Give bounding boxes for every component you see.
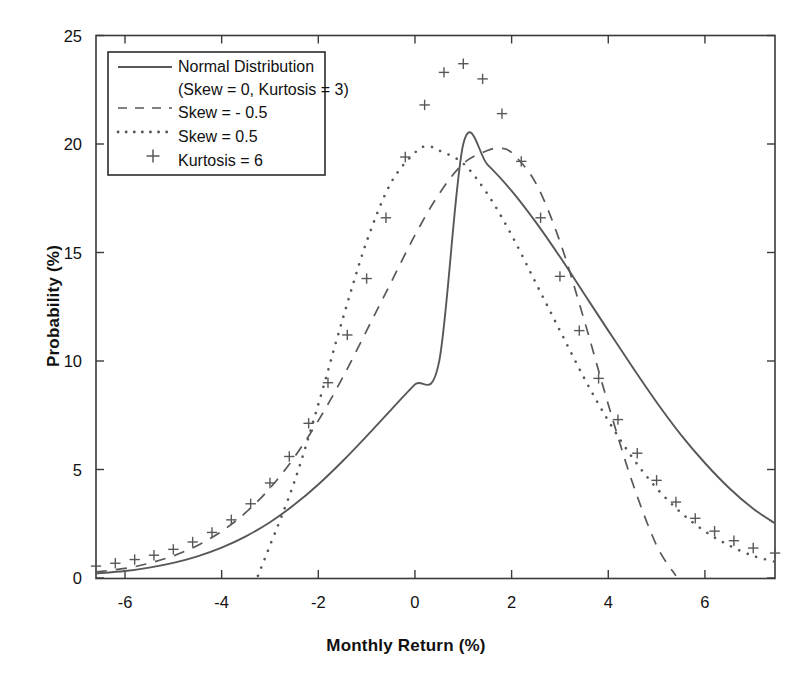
x-axis-tick-labels: -6-4-20246 xyxy=(118,593,710,611)
x-tick-label: -6 xyxy=(118,593,133,611)
series-2 xyxy=(258,146,775,576)
x-tick-label: 6 xyxy=(700,593,709,611)
x-tick-label: 2 xyxy=(507,593,516,611)
x-tick-label: -2 xyxy=(311,593,326,611)
y-tick-label: 25 xyxy=(64,27,82,45)
y-axis-tick-labels: 0510152025 xyxy=(64,27,82,588)
x-axis-title: Monthly Return (%) xyxy=(0,636,812,656)
x-tick-label: 4 xyxy=(604,593,613,611)
y-axis-title: Probability (%) xyxy=(44,156,64,456)
legend-label-normal-1: Normal Distribution xyxy=(178,58,314,75)
legend-label-normal-2: (Skew = 0, Kurtosis = 3) xyxy=(178,81,349,98)
series-0 xyxy=(96,132,775,573)
y-tick-label: 20 xyxy=(64,135,82,153)
legend-label-kurtosis: Kurtosis = 6 xyxy=(178,152,263,169)
y-tick-label: 0 xyxy=(73,569,82,587)
chart-legend: Normal Distribution(Skew = 0, Kurtosis =… xyxy=(108,52,349,175)
legend-label-skew-neg: Skew = - 0.5 xyxy=(178,104,267,121)
y-tick-label: 5 xyxy=(73,461,82,479)
x-tick-label: -4 xyxy=(214,593,229,611)
distribution-chart: -6-4-20246 0510152025 Normal Distributio… xyxy=(0,0,812,686)
series-1 xyxy=(96,148,676,576)
x-tick-label: 0 xyxy=(410,593,419,611)
chart-figure: -6-4-20246 0510152025 Normal Distributio… xyxy=(0,0,812,686)
y-tick-label: 15 xyxy=(64,244,82,262)
legend-label-skew-pos: Skew = 0.5 xyxy=(178,128,258,145)
y-tick-label: 10 xyxy=(64,352,82,370)
